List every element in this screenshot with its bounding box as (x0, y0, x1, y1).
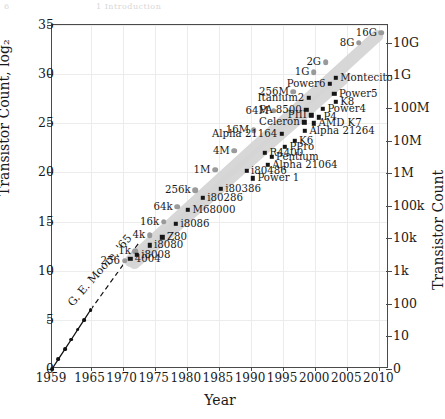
processor-label-itanium2: Itanium2 (258, 93, 305, 103)
y2-tick-label-10: 10 (393, 328, 409, 343)
processor-label-k6: K6 (299, 136, 313, 146)
processor-marker-i8008 (134, 253, 138, 257)
processor-marker-ppro (283, 145, 287, 149)
processor-marker-i8086 (174, 221, 178, 225)
memory-marker-16g (379, 30, 385, 36)
processor-label-montecito: Montecito (340, 73, 392, 83)
gridline-x-1970 (123, 25, 124, 367)
x-tick-label-1970: 1970 (106, 371, 137, 385)
memory-marker-4k (147, 233, 153, 239)
memory-marker-256 (122, 258, 128, 264)
gridline-y-15 (52, 222, 387, 223)
x-tick-label-1985: 1985 (203, 371, 234, 385)
x-tick-label-2005: 2005 (331, 371, 362, 385)
gridline-y-5 (52, 320, 387, 321)
moore-point-1 (56, 357, 60, 361)
gridline-x-1965 (91, 25, 92, 367)
y2-tick-label-100k: 100k (393, 197, 424, 212)
tick-y2-1k (386, 271, 392, 272)
processor-marker-celeron (302, 120, 306, 124)
processor-marker-r4400 (263, 151, 267, 155)
tick-y2-0 (386, 369, 392, 370)
processor-label-alpha-21164: Alpha 21164 (212, 129, 277, 139)
processor-label-m68000: M68000 (193, 205, 236, 215)
processor-label-i8008: i8008 (141, 250, 170, 260)
memory-label-2g: 2G (306, 57, 321, 67)
moore-point-5 (82, 318, 86, 322)
y2-tick-label-0: 0 (393, 361, 401, 376)
processor-marker-i80486 (244, 168, 248, 172)
processor-label-power6: Power6 (287, 79, 326, 89)
figure-transistor-count-vs-year: 6 1 Introduction G. E. Moore, '652561k4k… (0, 0, 445, 419)
memory-marker-256k (192, 187, 198, 193)
tick-y2-10k (386, 238, 392, 239)
memory-label-1m: 1M (194, 164, 211, 174)
tick-y2-10 (386, 336, 392, 337)
y-tick-label-0: 0 (24, 361, 54, 376)
y-tick-label-30: 30 (24, 66, 54, 81)
processor-marker-piii (309, 113, 313, 117)
processor-marker-p4 (317, 115, 321, 119)
x-axis-title: Year (204, 392, 235, 408)
processor-label-i80286: i80286 (207, 193, 243, 203)
memory-label-16k: 16k (140, 216, 159, 226)
y2-tick-label-10M: 10M (393, 132, 422, 147)
tick-y2-100M (386, 108, 392, 109)
processor-marker-4004 (128, 257, 132, 261)
memory-label-256k: 256k (165, 185, 191, 195)
x-tick-label-2010: 2010 (363, 371, 394, 385)
y2-tick-label-1k: 1k (393, 263, 409, 278)
processor-label-power-1: Power 1 (257, 173, 299, 183)
processor-marker-power-1 (251, 176, 255, 180)
memory-marker-8g (356, 40, 362, 46)
memory-label-64k: 64k (154, 202, 173, 212)
memory-marker-64k (174, 204, 180, 210)
processor-label-i80386: i80386 (225, 184, 261, 194)
memory-label-16g: 16G (356, 28, 377, 38)
y-tick-label-10: 10 (24, 262, 54, 277)
processor-marker-power4 (321, 106, 325, 110)
moore-point-4 (76, 328, 80, 332)
tick-y2-10G (386, 43, 392, 44)
processor-label-power5: Power5 (339, 89, 378, 99)
processor-marker-i80386 (219, 187, 223, 191)
y2-tick-label-100M: 100M (393, 99, 430, 114)
processor-label-z80: Z80 (167, 232, 187, 242)
page-number-ghost: 6 (4, 2, 10, 11)
processor-marker-k6 (292, 139, 296, 143)
chapter-title-ghost: 1 Introduction (96, 2, 161, 11)
y-tick-label-25: 25 (24, 115, 54, 130)
memory-marker-2g (323, 60, 329, 66)
processor-marker-alpha-21164 (280, 132, 284, 136)
processor-marker-power5 (332, 92, 336, 96)
y2-tick-label-1M: 1M (393, 165, 414, 180)
processor-marker-i8080 (147, 243, 151, 247)
memory-label-1g: 1G (295, 67, 310, 77)
processor-marker-itanium2 (307, 95, 311, 99)
tick-y2-1M (386, 173, 392, 174)
y2-tick-label-100: 100 (393, 295, 417, 310)
moore-point-6 (89, 308, 93, 312)
x-tick-label-1980: 1980 (171, 371, 202, 385)
memory-marker-4m (232, 148, 238, 154)
y-tick-label-15: 15 (24, 213, 54, 228)
secondary-y-axis-title: Transistor Count (430, 170, 445, 290)
gridline-x-1995 (283, 25, 284, 367)
page-header-ghost: 6 1 Introduction (0, 0, 445, 14)
y-tick-label-5: 5 (24, 311, 54, 326)
plot-area: G. E. Moore, '652561k4k16k64k256k1M4M16M… (51, 24, 388, 368)
y-tick-label-35: 35 (24, 17, 54, 32)
processor-marker-i80286 (201, 196, 205, 200)
memory-marker-16k (161, 219, 167, 225)
moore-point-3 (69, 338, 73, 342)
x-tick-label-1990: 1990 (235, 371, 266, 385)
gridline-x-1990 (251, 25, 252, 367)
tick-y2-10M (386, 141, 392, 142)
gridline-x-1980 (187, 25, 188, 367)
x-tick-label-1975: 1975 (138, 371, 169, 385)
processor-marker-k8 (333, 99, 337, 103)
processor-marker-m68000 (186, 208, 190, 212)
moore-point-2 (63, 347, 67, 351)
x-tick-label-1965: 1965 (74, 371, 105, 385)
gridline-y-35 (52, 25, 387, 26)
